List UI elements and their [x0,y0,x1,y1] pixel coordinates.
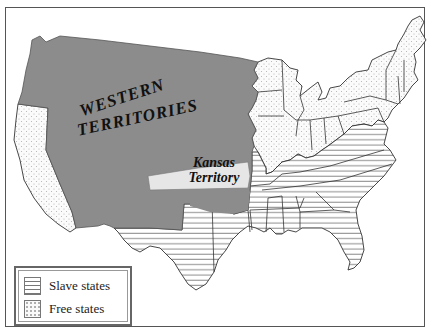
free-states-swatch-icon [24,300,41,318]
kansas-label-line1: Kansas [174,155,254,170]
legend-label-slave: Slave states [49,278,110,294]
legend-item-free: Free states [24,300,104,318]
legend-item-slave: Slave states [24,277,110,295]
slave-states-swatch-icon [24,277,41,295]
map-legend: Slave states Free states [14,266,132,326]
legend-label-free: Free states [49,301,104,317]
kansas-territory-label: Kansas Territory [174,155,254,185]
kansas-label-line2: Territory [174,170,254,185]
